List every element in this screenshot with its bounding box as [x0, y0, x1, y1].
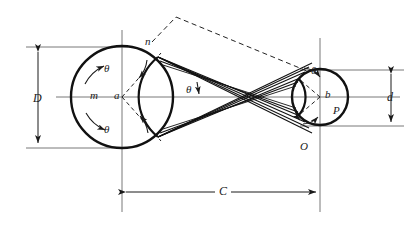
angle-label-theta-small-upper: θ — [311, 65, 316, 76]
dimension-label-D: D — [33, 92, 42, 104]
point-label-P: P — [333, 105, 340, 116]
rotation-arrow-large-lower — [86, 113, 105, 130]
rotation-arrow-large-upper — [85, 66, 104, 84]
point-label-m: m — [90, 90, 98, 101]
point-label-O: O — [300, 141, 308, 152]
point-label-b: b — [325, 89, 331, 100]
rotation-arrows — [85, 60, 320, 133]
dimension-label-C: C — [215, 185, 231, 197]
diagram-root: D d C m a n b P O θ θ θ θ — [0, 0, 416, 234]
dimension-label-d: d — [387, 91, 393, 103]
point-label-a: a — [114, 90, 120, 101]
construction-dashed-polygon — [152, 17, 307, 71]
point-label-n: n — [145, 36, 151, 47]
angle-label-theta-large-upper: θ — [104, 63, 109, 74]
rotation-arrow-belt-theta — [197, 82, 199, 94]
angle-label-theta-large-lower: θ — [104, 124, 109, 135]
crossed-belt-drive-figure — [0, 0, 416, 234]
angle-label-theta-belt-wedge: θ — [186, 84, 191, 95]
